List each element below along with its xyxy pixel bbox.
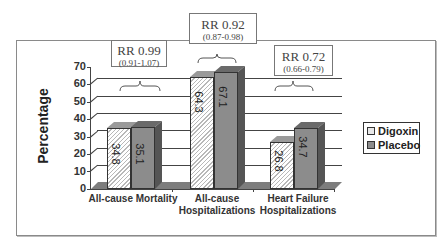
value-label: 64.3	[193, 91, 205, 112]
y-tick-50: 50	[66, 95, 86, 107]
y-tick-20: 20	[66, 147, 86, 159]
value-label: 26.8	[273, 150, 285, 171]
rr-box-hospitalizations: RR 0.92 (0.87-0.98)	[189, 13, 257, 44]
legend-swatch-digoxin-icon	[367, 127, 375, 135]
legend-item-placebo[interactable]: Placebo	[367, 139, 420, 151]
y-tick-0: 0	[66, 182, 86, 194]
y-tick-40: 40	[66, 112, 86, 124]
x-label-heart-failure-hospitalizations: Heart Failure Hospitalizations	[253, 193, 343, 217]
value-label: 67.1	[217, 86, 229, 107]
x-label-all-cause-hospitalizations: All-cause Hospitalizations	[172, 193, 262, 217]
value-label: 34.8	[110, 143, 122, 164]
y-axis-label: Percentage	[35, 81, 51, 171]
brace-icon	[274, 80, 314, 92]
value-label: 34.7	[297, 136, 309, 157]
rr-box-hf-hospitalizations: RR 0.72 (0.66-0.79)	[274, 45, 333, 76]
brace-icon	[119, 80, 161, 92]
brace-icon	[197, 53, 237, 64]
legend-item-digoxin[interactable]: Digoxin	[367, 125, 418, 137]
y-tick-30: 30	[66, 130, 86, 142]
legend-swatch-placebo-icon	[367, 141, 375, 149]
value-label: 35.1	[134, 143, 146, 164]
x-label-all-cause-mortality: All-cause Mortality	[88, 193, 178, 205]
chart-legend: Digoxin Placebo	[363, 122, 420, 154]
y-tick-10: 10	[66, 165, 86, 177]
y-tick-70: 70	[66, 60, 86, 72]
y-tick-60: 60	[66, 77, 86, 89]
rr-box-mortality: RR 0.99 (0.91-1.07)	[111, 40, 167, 67]
